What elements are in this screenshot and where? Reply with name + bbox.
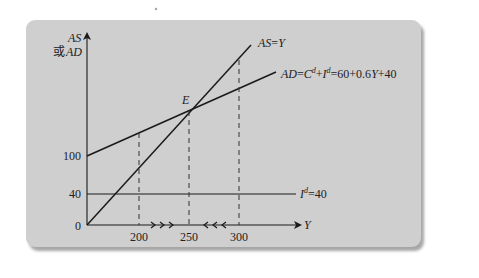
y-axis-label-as: AS bbox=[67, 31, 81, 45]
y-tick-0: 0 bbox=[75, 219, 81, 233]
chart-svg: AS 或 AD 100 40 0 200 250 300 Y E AS=Y AD… bbox=[0, 0, 479, 278]
x-tick-200: 200 bbox=[130, 230, 148, 244]
as-line bbox=[87, 45, 251, 225]
y-axis-label-or: 或 bbox=[53, 45, 65, 59]
x-axis-label: Y bbox=[304, 218, 312, 232]
as-line-label: AS=Y bbox=[257, 36, 286, 50]
y-axis-label-ad: AD bbox=[65, 45, 82, 59]
x-tick-300: 300 bbox=[230, 230, 248, 244]
x-tick-250: 250 bbox=[180, 230, 198, 244]
as-label-lhs: AS bbox=[257, 36, 271, 50]
ad-line bbox=[87, 72, 276, 156]
equilibrium-label: E bbox=[181, 93, 190, 107]
ad-label-rhs: =60+0.6 bbox=[331, 67, 372, 81]
ad-label-lhs: AD bbox=[280, 67, 297, 81]
id-line-label: Id=40 bbox=[299, 186, 327, 201]
id-label-rhs: =40 bbox=[308, 187, 327, 201]
ad-label-tail: +40 bbox=[378, 67, 397, 81]
y-tick-100: 100 bbox=[63, 149, 81, 163]
as-label-rhs: Y bbox=[278, 36, 286, 50]
ad-line-label: AD=Cd+Id=60+0.6Y+40 bbox=[280, 66, 397, 81]
y-tick-40: 40 bbox=[69, 187, 81, 201]
